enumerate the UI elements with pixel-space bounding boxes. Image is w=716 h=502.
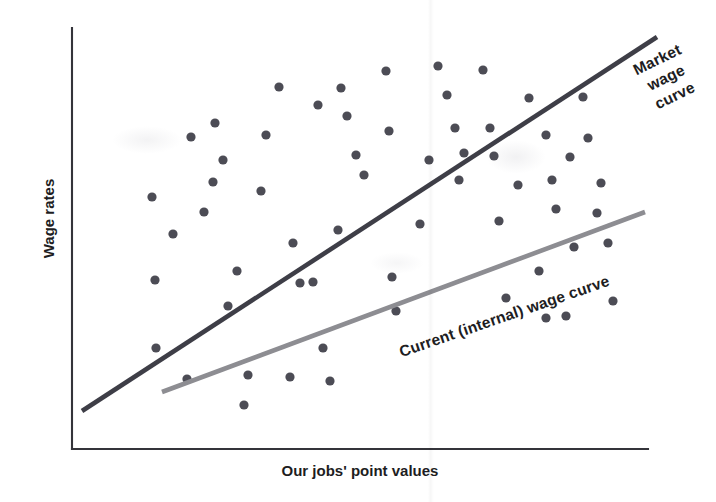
market-wage-curve-line <box>82 37 657 411</box>
scatter-point <box>415 219 424 228</box>
scatter-point <box>592 208 601 217</box>
scatter-point <box>381 66 390 75</box>
scatter-point <box>478 65 487 74</box>
scatter-point <box>218 155 227 164</box>
scatter-point <box>561 311 570 320</box>
scatter-point <box>578 92 587 101</box>
scatter-point <box>274 82 283 91</box>
scatter-point <box>433 61 442 70</box>
scatter-point <box>387 272 396 281</box>
scatter-point <box>150 275 159 284</box>
scatter-point <box>325 376 334 385</box>
scatter-plot-canvas <box>0 0 716 502</box>
scatter-point <box>501 293 510 302</box>
scatter-point <box>351 150 360 159</box>
scatter-point <box>513 180 522 189</box>
chart-axes <box>72 28 648 449</box>
scatter-point <box>308 277 317 286</box>
scatter-point <box>596 178 605 187</box>
scatter-point <box>168 229 177 238</box>
scatter-point <box>494 216 503 225</box>
scatter-point <box>208 177 217 186</box>
trend-lines-group <box>82 37 657 411</box>
scatter-point <box>541 313 550 322</box>
scatter-point <box>359 170 368 179</box>
scatter-point <box>147 192 156 201</box>
scatter-point <box>565 152 574 161</box>
scatter-point <box>342 111 351 120</box>
scatter-point <box>186 132 195 141</box>
scatter-point <box>239 400 248 409</box>
scatter-point <box>318 343 327 352</box>
scatter-point <box>256 186 265 195</box>
scatter-point <box>232 266 241 275</box>
scatter-point <box>534 266 543 275</box>
scatter-point <box>151 343 160 352</box>
scatter-point <box>454 175 463 184</box>
scatter-point <box>384 126 393 135</box>
scatter-point <box>551 204 560 213</box>
scatter-point <box>489 151 498 160</box>
scatter-point <box>333 225 342 234</box>
x-axis-title: Our jobs' point values <box>72 462 648 479</box>
wage-curve-chart-figure: Market wage curve Current (internal) wag… <box>0 0 716 502</box>
scatter-point <box>459 148 468 157</box>
scatter-point <box>424 155 433 164</box>
scatter-point <box>603 238 612 247</box>
y-axis-title: Wage rates <box>40 159 57 279</box>
scatter-point <box>295 278 304 287</box>
scatter-point <box>288 238 297 247</box>
scatter-point <box>608 296 617 305</box>
scatter-point <box>336 83 345 92</box>
scatter-point <box>547 175 556 184</box>
scatter-point <box>450 123 459 132</box>
scatter-point <box>243 370 252 379</box>
scatter-point <box>223 301 232 310</box>
scatter-points-group <box>147 61 617 409</box>
scatter-point <box>442 90 451 99</box>
scatter-point <box>583 133 592 142</box>
scatter-point <box>485 123 494 132</box>
scatter-point <box>313 100 322 109</box>
scatter-point <box>541 130 550 139</box>
scatter-point <box>199 207 208 216</box>
scatter-point <box>210 118 219 127</box>
scatter-point <box>524 93 533 102</box>
scatter-point <box>569 242 578 251</box>
scatter-point <box>285 372 294 381</box>
scatter-point <box>261 130 270 139</box>
